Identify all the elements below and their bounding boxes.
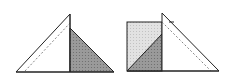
left-shaded-triangle [70, 28, 114, 72]
diagram-svg [0, 0, 229, 81]
diagram-canvas [0, 0, 229, 81]
left-white-triangle [16, 14, 70, 72]
right-figure [127, 13, 219, 71]
left-figure [16, 14, 114, 72]
